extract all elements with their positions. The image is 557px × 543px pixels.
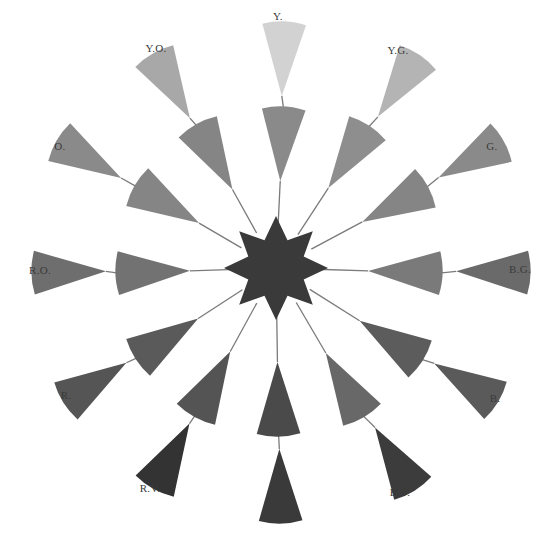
stem-inner-g (311, 222, 362, 249)
pennant-outer-y (262, 21, 306, 96)
label-bv: B.V. (390, 486, 411, 498)
central-star (224, 216, 328, 320)
pennant-inner-o (126, 168, 199, 223)
label-r: R. (61, 389, 72, 401)
label-bg: B.G. (509, 263, 531, 275)
pennant-inner-yo (179, 116, 233, 189)
pennant-inner-v (257, 362, 301, 437)
color-wheel-diagram: Y.Y.G.G.B.G.B.B.V.V.R.V.R.R.O.O.Y.O. (0, 0, 557, 543)
stem-inner-bv (296, 303, 326, 353)
pennant-inner-g (362, 169, 435, 222)
label-rv: R.V. (140, 482, 161, 494)
pennant-inner-yg (328, 116, 385, 188)
label-g: G. (486, 140, 497, 152)
stem-inner-b (310, 289, 360, 320)
label-v: V. (275, 513, 285, 525)
stem-inner-yg (298, 188, 328, 234)
star-shape (224, 216, 328, 320)
pennant-inner-r (126, 318, 198, 375)
pennant-inner-y (262, 106, 306, 181)
label-yg: Y.G. (387, 44, 408, 56)
pennant-outer-yo (135, 45, 190, 118)
stem-inner-rv (230, 303, 257, 351)
pennant-inner-bg (368, 251, 443, 295)
label-yo: Y.O. (145, 42, 166, 54)
pennant-inner-b (360, 321, 432, 378)
label-ro: R.O. (29, 264, 51, 276)
pennant-outer-g (439, 124, 512, 178)
label-b: B. (490, 392, 501, 404)
stem-inner-o (199, 223, 241, 248)
label-y: Y. (273, 10, 283, 22)
stem-inner-r (198, 290, 242, 319)
pennant-inner-bv (326, 353, 381, 426)
pennant-inner-ro (115, 251, 190, 295)
pennant-inner-rv (177, 351, 231, 424)
pennant-outer-yg (378, 45, 436, 117)
label-o: O. (54, 140, 65, 152)
stem-inner-yo (232, 189, 256, 233)
